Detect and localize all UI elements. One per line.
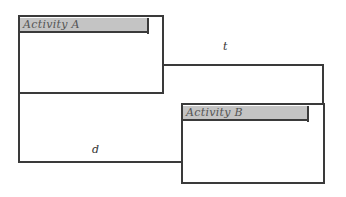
activity-a-header: Activity A xyxy=(20,18,149,33)
activity-b-header-tick xyxy=(307,106,309,122)
connector-d-label: d xyxy=(92,143,99,156)
connector-d-horizontal xyxy=(18,161,182,163)
connector-t-horizontal xyxy=(163,64,324,66)
activity-a-title: Activity A xyxy=(23,18,80,32)
connector-t-label: t xyxy=(223,40,227,53)
activity-b-box: Activity B xyxy=(181,103,325,184)
connector-t-vertical xyxy=(322,64,324,104)
activity-b-header: Activity B xyxy=(183,106,309,121)
activity-b-title: Activity B xyxy=(186,106,243,120)
activity-a-box: Activity A xyxy=(18,15,164,94)
connector-d-vertical xyxy=(18,93,20,163)
activity-a-header-tick xyxy=(147,18,149,34)
